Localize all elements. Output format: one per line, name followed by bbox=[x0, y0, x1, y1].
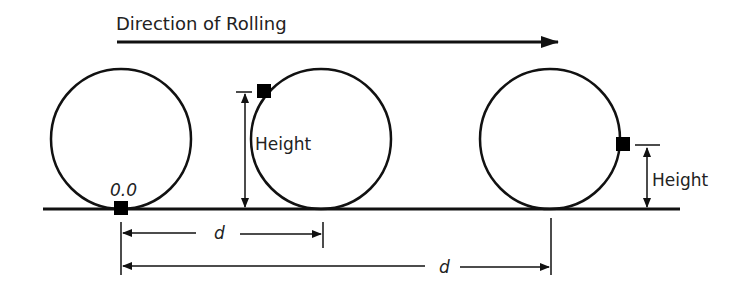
wheel-end bbox=[480, 69, 620, 209]
distance-short-label: d bbox=[214, 223, 225, 243]
height-2-label: Height bbox=[652, 170, 709, 190]
rolling-wheel-diagram: Direction of Rolling 0.0 Height Height d… bbox=[0, 0, 751, 293]
direction-label: Direction of Rolling bbox=[116, 13, 287, 34]
origin-label: 0.0 bbox=[110, 180, 137, 200]
point-end-marker bbox=[616, 137, 630, 151]
height-1-label: Height bbox=[255, 134, 312, 154]
point-start-marker bbox=[114, 201, 128, 215]
distance-long-label: d bbox=[439, 257, 450, 277]
point-middle-marker bbox=[257, 84, 271, 98]
